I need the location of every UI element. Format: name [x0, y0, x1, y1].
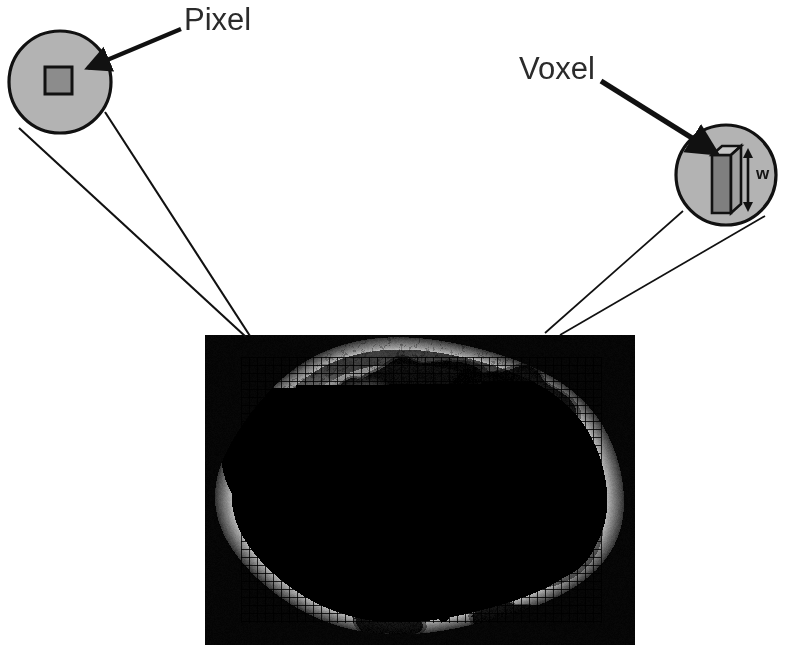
voxel-box-side-face — [731, 146, 741, 213]
pixel-label: Pixel — [184, 4, 251, 35]
pixel-pointer-arrow — [88, 29, 181, 68]
pixel-square — [45, 67, 72, 94]
voxel-width-label: w — [756, 165, 769, 182]
voxel-leader-lines — [545, 211, 765, 335]
callout-overlay — [0, 0, 789, 657]
voxel-box-front-face — [712, 155, 731, 213]
figure-canvas: Pixel Voxel w — [0, 0, 789, 657]
voxel-pointer-arrow — [601, 81, 716, 153]
voxel-label: Voxel — [519, 53, 595, 84]
pixel-magnifier[interactable] — [9, 31, 111, 133]
pixel-leader-lines — [19, 112, 250, 337]
voxel-box — [712, 146, 741, 213]
